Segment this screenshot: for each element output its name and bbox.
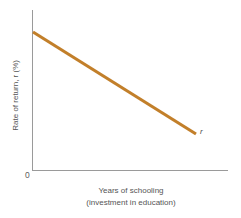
- chart-figure: 0 r Rate of return, r (%) Years of schoo…: [0, 0, 241, 218]
- rate-of-return-line: [33, 32, 196, 134]
- y-axis-title: Rate of return, r (%): [12, 50, 21, 140]
- x-axis-title: Years of schooling (investment in educat…: [33, 185, 229, 208]
- x-axis-title-line2: (investment in education): [33, 197, 229, 209]
- x-axis-title-line1: Years of schooling: [33, 185, 229, 197]
- origin-label: 0: [25, 171, 30, 180]
- curve-label-r: r: [200, 128, 203, 136]
